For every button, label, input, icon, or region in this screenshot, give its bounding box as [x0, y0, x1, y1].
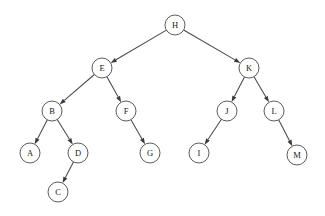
arrowhead-icon — [232, 96, 237, 103]
edge-j-to-i — [205, 119, 222, 144]
node-label: G — [147, 148, 153, 158]
edge-line — [279, 120, 290, 141]
edge-h-to-k — [184, 30, 241, 63]
edge-line — [57, 120, 69, 140]
arrowhead-icon — [111, 58, 117, 63]
tree-node-h[interactable]: H — [165, 15, 185, 35]
node-label: I — [198, 148, 201, 158]
edge-e-to-f — [107, 77, 121, 103]
edge-d-to-c — [63, 162, 74, 183]
arrowhead-icon — [234, 58, 240, 63]
edge-line — [254, 77, 266, 97]
edge-line — [38, 120, 48, 139]
edge-line — [116, 30, 166, 60]
binary-tree-diagram: HEKBFJLADGIMC — [0, 0, 325, 216]
arrowhead-icon — [35, 138, 40, 145]
arrowhead-icon — [63, 177, 68, 184]
tree-node-a[interactable]: A — [20, 143, 40, 163]
edge-e-to-b — [60, 75, 95, 105]
tree-node-l[interactable]: L — [264, 101, 284, 121]
edge-b-to-a — [35, 120, 48, 144]
arrowhead-icon — [116, 96, 121, 102]
nodes-layer: HEKBFJLADGIMC — [20, 15, 307, 202]
tree-node-c[interactable]: C — [48, 182, 68, 202]
edge-line — [131, 120, 142, 139]
edge-f-to-g — [131, 120, 145, 145]
tree-node-b[interactable]: B — [42, 101, 62, 121]
edge-h-to-e — [111, 30, 167, 63]
tree-node-m[interactable]: M — [287, 145, 307, 165]
edge-line — [234, 77, 244, 97]
node-label: C — [55, 187, 61, 197]
edge-k-to-l — [254, 77, 269, 103]
edge-line — [107, 77, 118, 97]
edge-k-to-j — [232, 77, 245, 102]
tree-node-j[interactable]: J — [217, 101, 237, 121]
node-label: E — [99, 63, 104, 73]
tree-node-g[interactable]: G — [140, 143, 160, 163]
node-label: L — [271, 106, 276, 116]
node-label: F — [124, 106, 129, 116]
arrowhead-icon — [68, 138, 73, 144]
arrowhead-icon — [140, 138, 145, 144]
tree-node-f[interactable]: F — [116, 101, 136, 121]
node-label: K — [246, 63, 253, 73]
node-label: M — [293, 150, 301, 160]
node-label: H — [172, 20, 178, 30]
tree-node-d[interactable]: D — [68, 143, 88, 163]
node-label: A — [27, 148, 34, 158]
node-label: D — [75, 148, 81, 158]
tree-node-i[interactable]: I — [189, 143, 209, 163]
arrowhead-icon — [205, 138, 210, 144]
edge-l-to-m — [279, 120, 293, 146]
arrowhead-icon — [288, 140, 293, 147]
node-label: B — [49, 106, 55, 116]
tree-node-e[interactable]: E — [92, 58, 112, 78]
edge-line — [64, 75, 94, 101]
tree-node-k[interactable]: K — [239, 58, 259, 78]
arrowhead-icon — [264, 96, 269, 102]
edge-line — [65, 162, 73, 178]
edge-b-to-d — [57, 120, 72, 145]
edge-line — [184, 30, 235, 60]
edge-line — [208, 119, 221, 139]
